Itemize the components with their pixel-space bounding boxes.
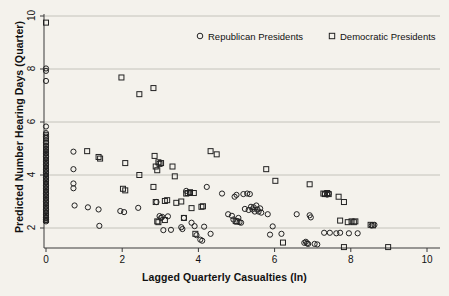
y-tick-label-4: 4: [26, 168, 37, 182]
scatter-plot-figure: Republican PresidentsDemocratic Presiden…: [0, 0, 449, 296]
plot-canvas: Republican PresidentsDemocratic Presiden…: [0, 0, 449, 296]
legend-label-0: Republican Presidents: [208, 31, 303, 42]
legend-label-1: Democratic Presidents: [340, 31, 436, 42]
x-tick-label-8: 8: [340, 254, 362, 265]
y-tick-label-8: 8: [26, 62, 37, 76]
y-tick-label-10: 10: [26, 9, 37, 23]
y-tick-label-2: 2: [26, 221, 37, 235]
x-tick-label-4: 4: [187, 254, 209, 265]
x-tick-label-6: 6: [264, 254, 286, 265]
y-axis-title: Predicted Number Hearing Days (Quarter): [13, 0, 25, 257]
x-tick-label-0: 0: [35, 254, 57, 265]
y-axis-title-wrapper: Predicted Number Hearing Days (Quarter): [13, 0, 27, 257]
x-tick-label-10: 10: [416, 254, 438, 265]
y-tick-label-6: 6: [26, 115, 37, 129]
x-axis-title: Lagged Quarterly Casualties (ln): [0, 271, 449, 283]
x-tick-label-2: 2: [111, 254, 133, 265]
figure-background: [0, 0, 449, 296]
